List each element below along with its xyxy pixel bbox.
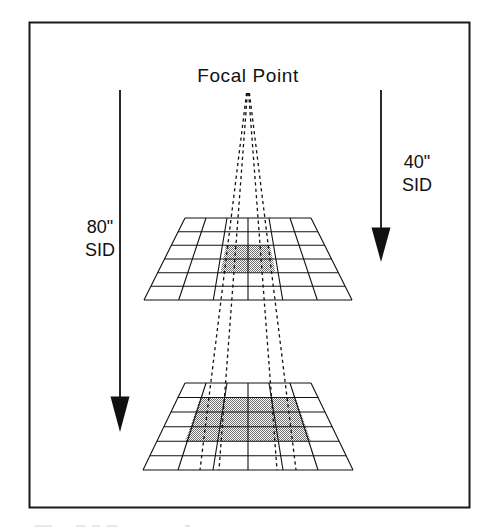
caption-fragment [34,525,190,527]
figure-root: Focal Point 80" SID 40" SID [0,0,494,528]
sid-40-unit-label: SID [402,175,432,195]
sid-40-arrow [372,90,391,262]
sid-40-arrow-head [372,228,391,263]
sid-80-arrow [111,90,130,432]
lower-image-plane [143,383,353,470]
sid-80-unit-label: SID [85,240,115,260]
sid-80-arrow-head [111,397,130,433]
beam-divergence-diagram: Focal Point 80" SID 40" SID [0,0,494,528]
upper-image-plane [144,218,352,300]
sid-80-distance-label: 80" [87,217,113,237]
sid-40-distance-label: 40" [404,152,430,172]
focal-point-title: Focal Point [197,65,299,86]
